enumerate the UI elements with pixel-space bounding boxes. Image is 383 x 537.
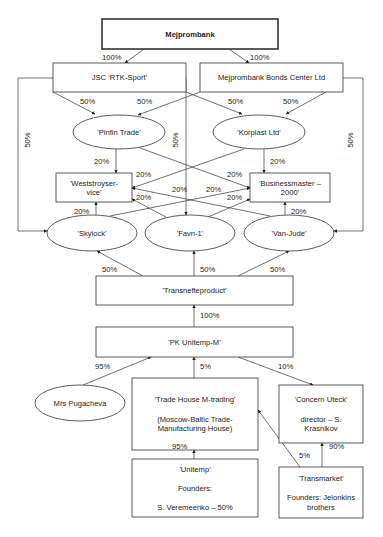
node-bonds-center: Mejprombank Bonds Center Ltd <box>200 63 343 92</box>
node-label: Mejprombank Bonds Center Ltd <box>218 73 325 82</box>
node-label: 'Favn-1' <box>177 229 204 238</box>
node-label: 'Transnefteproduct' <box>162 286 227 295</box>
node-label: JSC ‘RTK-Sport’ <box>92 73 148 82</box>
edge-percentage-label: 50% <box>283 97 298 106</box>
edge-percentage-label: 50% <box>171 132 180 147</box>
edge-percentage-label: 20% <box>136 193 151 202</box>
node-transmarket: 'Transmarket'Founders: Jelonkinsbrothers <box>279 467 363 518</box>
node-label: 'Businessmaster – <box>259 179 322 188</box>
node-businessmaster: 'Businessmaster –2000' <box>250 173 330 202</box>
edge-percentage-label: 20% <box>227 170 242 179</box>
node-label: Founders: Jelonkins <box>287 493 355 502</box>
edge-percentage-label: 20% <box>74 207 89 216</box>
edge-percentage-label: 50% <box>270 265 285 274</box>
edge-mejprombank-to-rtk-sport <box>125 49 144 63</box>
edge-van-jude-to-weststroy <box>132 188 270 216</box>
edge-pinfin-trade-to-businessmaster <box>140 148 250 188</box>
node-label: 'PK Unitemp-M' <box>168 338 221 347</box>
edge-percentage-label: 100% <box>250 53 270 62</box>
node-pk-unitemp: 'PK Unitemp-M' <box>96 327 293 357</box>
edge-percentage-label: 10% <box>278 362 293 371</box>
node-label: 'Trade House M-trading' <box>155 395 236 404</box>
node-label: 'Pinfin Trade' <box>97 128 141 137</box>
node-mejprombank: Mejprombank <box>102 19 278 49</box>
edge-percentage-label: 100% <box>102 53 122 62</box>
edge-percentage-label: 50% <box>228 97 243 106</box>
node-unitemp: 'Unitemp'Founders:S. Veremeenko – 50% <box>132 459 258 517</box>
edge-percentage-label: 50% <box>80 97 95 106</box>
edge-percentage-label: 95% <box>95 362 110 371</box>
node-weststroy: 'Weststroyser-vice' <box>56 173 132 202</box>
edge-percentage-label: 5% <box>200 362 211 371</box>
node-label: 'Korplast Ltd' <box>237 128 281 137</box>
node-van-jude: 'Van-Jude' <box>244 215 334 251</box>
node-pinfin-trade: 'Pinfin Trade' <box>73 115 165 149</box>
diagram-canvas: MejprombankJSC ‘RTK-Sport’Mejprombank Bo… <box>0 0 383 537</box>
node-label: Mrs Pugacheva <box>54 399 108 408</box>
node-label: 'Concern Uteck' <box>294 395 348 404</box>
node-label: 2000' <box>281 188 300 197</box>
edge-percentage-label: 50% <box>137 97 152 106</box>
edge-percentage-label: 50% <box>200 265 215 274</box>
node-skylock: 'Skylock' <box>47 215 137 251</box>
node-label: Krasnikov <box>304 424 338 433</box>
edge-percentage-label: 20% <box>291 207 306 216</box>
edge-percentage-label: 20% <box>172 185 187 194</box>
node-label: 'Van-Jude' <box>272 229 307 238</box>
edge-percentage-label: 20% <box>136 170 151 179</box>
node-label: (Moscow-Baltic Trade- <box>157 415 233 424</box>
edge-percentage-label: 20% <box>206 185 221 194</box>
node-label: 'Weststroyser- <box>70 179 119 188</box>
node-label: 'Skylock' <box>77 229 107 238</box>
node-label: director – S. <box>301 415 342 424</box>
node-label: vice' <box>87 188 103 197</box>
node-pugacheva: Mrs Pugacheva <box>35 385 125 421</box>
node-label: S. Veremeenko – 50% <box>157 503 233 512</box>
edge-percentage-label: 100% <box>200 311 220 320</box>
nodes-layer: MejprombankJSC ‘RTK-Sport’Mejprombank Bo… <box>35 19 363 518</box>
edge-percentage-label: 20% <box>227 193 242 202</box>
node-transnefteproduct: 'Transnefteproduct' <box>96 276 293 305</box>
node-concern-uteck: 'Concern Uteck'director – S.Krasnikov <box>279 385 363 443</box>
edge-mejprombank-to-bonds-center <box>229 49 249 63</box>
edge-korplast-to-weststroy <box>132 149 244 188</box>
edge-rtk-sport-to-skylock <box>18 78 53 231</box>
node-label: Founders: <box>178 484 212 493</box>
ownership-diagram: MejprombankJSC ‘RTK-Sport’Mejprombank Bo… <box>0 0 383 537</box>
node-trade-house: 'Trade House M-trading'(Moscow-Baltic Tr… <box>132 378 258 450</box>
edge-percentage-label: 50% <box>102 265 117 274</box>
edge-bonds-center-to-van-jude <box>334 78 363 231</box>
edge-percentage-label: 90% <box>329 442 344 451</box>
node-label: Manufacturing House) <box>158 424 233 433</box>
edge-percentage-label: 50% <box>23 132 32 147</box>
edge-percentage-label: 50% <box>346 132 355 147</box>
node-rtk-sport: JSC ‘RTK-Sport’ <box>53 63 186 92</box>
edge-percentage-label: 20% <box>94 157 109 166</box>
node-korplast: 'Korplast Ltd' <box>213 115 305 149</box>
node-label: brothers <box>307 503 335 512</box>
edge-percentage-label: 20% <box>270 157 285 166</box>
node-label: 'Transmarket' <box>298 474 344 483</box>
node-favn1: 'Favn-1' <box>145 215 235 251</box>
node-label: 'Unitemp' <box>179 465 211 474</box>
node-label: Mejprombank <box>165 30 215 39</box>
edge-percentage-label: 95% <box>172 442 187 451</box>
edge-percentage-label: 5% <box>299 451 310 460</box>
